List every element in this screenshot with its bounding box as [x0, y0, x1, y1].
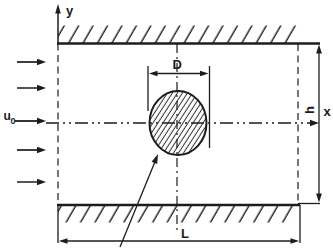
arrow-left-icon	[149, 71, 158, 77]
flow-past-cylinder-diagram: y u 0 x	[0, 0, 333, 249]
inlet-velocity-subscript: 0	[11, 116, 16, 126]
inlet-flow-arrows: u 0	[4, 59, 47, 185]
arrow-right-icon	[200, 71, 209, 77]
arrow-up-icon	[316, 45, 322, 54]
inflow-arrow	[17, 147, 46, 153]
arrow-right-icon	[291, 238, 300, 244]
y-axis-arrowhead-icon	[55, 4, 61, 14]
height-label: h	[302, 106, 317, 114]
arrow-down-icon	[316, 194, 322, 203]
arrow-left-icon	[59, 238, 68, 244]
arrow-right-icon	[37, 118, 46, 124]
arrow-right-icon	[37, 59, 46, 65]
y-axis-label: y	[66, 3, 74, 18]
top-wall-hatching	[58, 26, 298, 44]
arrow-up-right-icon	[152, 154, 158, 164]
top-wall	[57, 26, 320, 44]
diameter-label: D	[173, 57, 182, 72]
inflow-arrow	[17, 59, 46, 65]
length-label: L	[181, 226, 189, 241]
arrow-right-icon	[37, 85, 46, 91]
diagram-canvas: y u 0 x	[0, 0, 333, 249]
inflow-arrow	[17, 85, 46, 91]
arrow-right-icon	[37, 179, 46, 185]
x-axis-label: x	[324, 104, 332, 119]
leader-line	[120, 161, 156, 248]
bottom-wall	[57, 205, 300, 223]
inflow-arrow-u0	[15, 118, 46, 124]
inflow-arrow	[17, 179, 46, 185]
cylinder-leader-arrow	[120, 154, 158, 247]
height-dimension: h	[298, 45, 322, 204]
arrow-right-icon	[37, 147, 46, 153]
x-axis-arrowhead-icon	[310, 120, 319, 126]
